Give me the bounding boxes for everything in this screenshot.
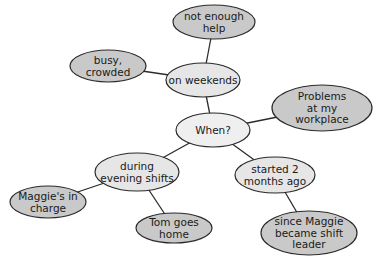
node-evening-shifts: duringevening shifts <box>95 153 179 191</box>
node-label: busy, <box>94 54 122 66</box>
node-maggies-in-charge: Maggie's incharge <box>10 186 86 218</box>
node-label: not enough <box>184 10 244 22</box>
node-label: workplace <box>295 113 349 125</box>
node-label: at my <box>307 102 337 114</box>
node-label: When? <box>195 124 231 136</box>
node-problems: Problemsat myworkplace <box>272 85 372 131</box>
mind-map-canvas: When?on weekendsnot enoughhelpbusy,crowd… <box>0 0 377 261</box>
node-label: started 2 <box>251 163 299 175</box>
node-when: When? <box>176 113 250 147</box>
node-label: during <box>120 160 154 172</box>
node-label: Maggie's in <box>18 190 77 202</box>
node-not-enough-help: not enoughhelp <box>173 5 255 39</box>
nodes-layer: When?on weekendsnot enoughhelpbusy,crowd… <box>10 5 372 255</box>
node-label: became shift <box>275 227 343 239</box>
node-label: leader <box>292 238 326 250</box>
node-label: Problems <box>298 90 346 102</box>
node-label: Tom goes <box>148 216 199 228</box>
node-label: months ago <box>244 175 306 187</box>
node-label: evening shifts <box>100 172 174 184</box>
node-tom-goes-home: Tom goeshome <box>136 213 212 243</box>
node-label: crowded <box>86 66 131 78</box>
node-label: home <box>159 228 189 240</box>
node-label: on weekends <box>169 74 238 86</box>
node-weekends: on weekends <box>166 63 240 97</box>
node-started-2-months: started 2months ago <box>235 157 315 193</box>
node-label: since Maggie <box>275 215 344 227</box>
node-since-maggie: since Maggiebecame shiftleader <box>261 211 357 255</box>
node-busy-crowded: busy,crowded <box>70 50 146 82</box>
node-label: help <box>203 22 226 34</box>
node-label: charge <box>30 202 66 214</box>
